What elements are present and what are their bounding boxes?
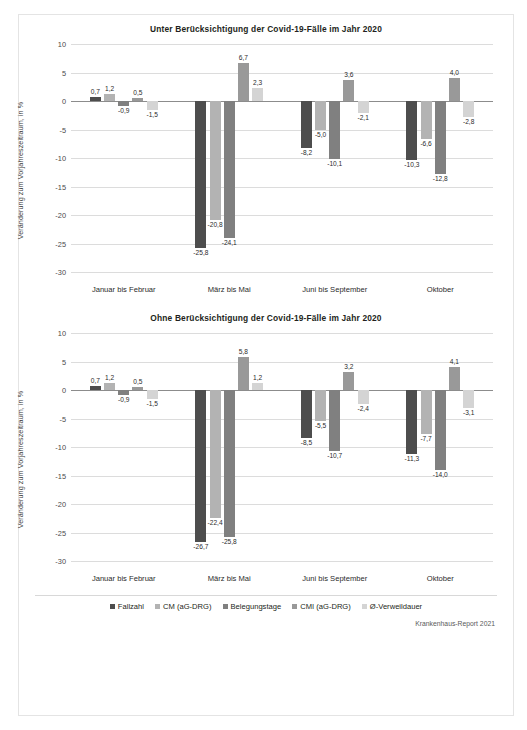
legend-item[interactable]: CM (aG-DRG)	[155, 602, 212, 611]
bar-slot: 4,0	[449, 44, 460, 272]
bar-slot: 1,2	[104, 44, 115, 272]
bar-value-label: 1,2	[105, 374, 114, 381]
legend-item[interactable]: Fallzahl	[110, 602, 144, 611]
bar-value-label: 4,0	[450, 69, 459, 76]
bar[interactable]	[301, 390, 312, 438]
bar[interactable]	[435, 390, 446, 470]
bar[interactable]	[118, 101, 129, 106]
y-axis-tick-label: 0	[62, 386, 66, 395]
bar[interactable]	[329, 101, 340, 159]
bar[interactable]	[358, 390, 369, 404]
bar[interactable]	[132, 387, 143, 390]
bar[interactable]	[406, 390, 417, 454]
bar[interactable]	[195, 101, 206, 248]
bar[interactable]	[147, 101, 158, 110]
bar[interactable]	[435, 101, 446, 174]
x-axis-category-label: Januar bis Februar	[71, 574, 177, 583]
bar[interactable]	[301, 101, 312, 148]
bar[interactable]	[343, 372, 354, 390]
bar-value-label: -5,0	[315, 131, 326, 138]
bar[interactable]	[329, 390, 340, 451]
legend-item[interactable]: CMI (aG-DRG)	[292, 602, 351, 611]
bar-slot: 3,6	[343, 44, 354, 272]
legend-item[interactable]: Belegungstage	[223, 602, 282, 611]
bar-slot: -2,4	[358, 333, 369, 561]
bar-slot: -14,0	[435, 333, 446, 561]
bar-slot: 1,2	[252, 333, 263, 561]
bar-slot: -1,5	[147, 333, 158, 561]
bar-slot: 0,7	[90, 44, 101, 272]
bar[interactable]	[315, 101, 326, 130]
bar-value-label: -2,1	[357, 114, 368, 121]
bar[interactable]	[421, 390, 432, 434]
bar-value-label: 3,6	[344, 71, 353, 78]
bar[interactable]	[449, 367, 460, 390]
y-axis-tick-label: 5	[62, 68, 66, 77]
bar-slot: -0,9	[118, 333, 129, 561]
bar[interactable]	[90, 386, 101, 390]
bar-slot: -5,0	[315, 44, 326, 272]
bar[interactable]	[210, 101, 221, 220]
bar-slot: -2,1	[358, 44, 369, 272]
bar-slot: -5,5	[315, 333, 326, 561]
bar[interactable]	[210, 390, 221, 518]
bar-value-label: -12,8	[433, 175, 448, 182]
legend-label: CMI (aG-DRG)	[300, 602, 351, 611]
bar-group: -10,3-6,6-12,84,0-2,8	[388, 44, 494, 272]
x-axis-category-label: Oktober	[388, 285, 494, 294]
bar-value-label: -10,7	[327, 452, 342, 459]
bar[interactable]	[238, 357, 249, 390]
chart-lower-x-axis-labels: Januar bis FebruarMärz bis MaiJuni bis S…	[71, 574, 493, 583]
bar-value-label: -14,0	[433, 471, 448, 478]
gridline: -30	[71, 272, 493, 273]
bar-slot: -26,7	[195, 333, 206, 561]
y-axis-tick-label: -20	[55, 211, 66, 220]
bar[interactable]	[252, 88, 263, 101]
legend-swatch-icon	[362, 604, 367, 609]
bar[interactable]	[224, 101, 235, 238]
bar-value-label: -22,4	[208, 519, 223, 526]
bar[interactable]	[358, 101, 369, 113]
chart-upper-plot-area: Veränderung zum Vorjahreszeitraum, in % …	[19, 36, 499, 304]
bar[interactable]	[406, 101, 417, 160]
bar-value-label: -10,1	[327, 160, 342, 167]
bar-slot: -10,7	[329, 333, 340, 561]
bar[interactable]	[252, 383, 263, 390]
bar-slot: 0,7	[90, 333, 101, 561]
bar-value-label: -8,5	[301, 439, 312, 446]
bar-value-label: -0,9	[118, 107, 129, 114]
bar[interactable]	[463, 101, 474, 117]
bar[interactable]	[421, 101, 432, 139]
bar-slot: -11,3	[406, 333, 417, 561]
bar[interactable]	[90, 97, 101, 101]
x-axis-category-label: März bis Mai	[177, 285, 283, 294]
bar-value-label: 3,2	[344, 363, 353, 370]
bar[interactable]	[449, 78, 460, 101]
legend-swatch-icon	[223, 604, 228, 609]
bar-slot: -25,8	[224, 333, 235, 561]
bar[interactable]	[315, 390, 326, 421]
bar-slot: -8,2	[301, 44, 312, 272]
bar[interactable]	[118, 390, 129, 395]
chart-lower-plot-area: Veränderung zum Vorjahreszeitraum, in % …	[19, 325, 499, 593]
bar[interactable]	[147, 390, 158, 399]
bar[interactable]	[238, 63, 249, 101]
bar[interactable]	[224, 390, 235, 537]
bar-group: -11,3-7,7-14,04,1-3,1	[388, 333, 494, 561]
chart-upper-canvas: 1050-5-10-15-20-25-300,71,2-0,90,5-1,5-2…	[71, 44, 493, 272]
bar-value-label: -1,5	[146, 111, 157, 118]
bar-group: -8,5-5,5-10,73,2-2,4	[282, 333, 388, 561]
bar-value-label: -24,1	[222, 239, 237, 246]
bar[interactable]	[195, 390, 206, 542]
legend-item[interactable]: Ø-Verweildauer	[362, 602, 422, 611]
bar-value-label: -2,4	[357, 405, 368, 412]
y-axis-tick-label: -10	[55, 154, 66, 163]
chart-legend: FallzahlCM (aG-DRG)BelegungstageCMI (aG-…	[35, 595, 497, 611]
bar[interactable]	[343, 80, 354, 101]
bar-slot: -20,8	[210, 44, 221, 272]
bar[interactable]	[104, 94, 115, 101]
bar[interactable]	[463, 390, 474, 408]
bar[interactable]	[132, 98, 143, 101]
bar[interactable]	[104, 383, 115, 390]
bar-slot: -8,5	[301, 333, 312, 561]
